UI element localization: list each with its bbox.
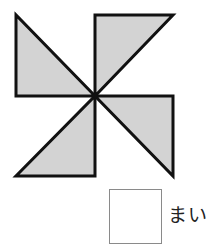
answer-box[interactable] <box>109 189 162 244</box>
triangle-top-left <box>16 15 95 96</box>
triangle-top-right <box>95 15 173 96</box>
pinwheel-figure <box>0 0 213 190</box>
center-point <box>93 94 98 99</box>
triangle-bottom-left <box>16 96 95 176</box>
triangle-bottom-right <box>95 96 173 176</box>
unit-label: まい <box>168 200 208 227</box>
